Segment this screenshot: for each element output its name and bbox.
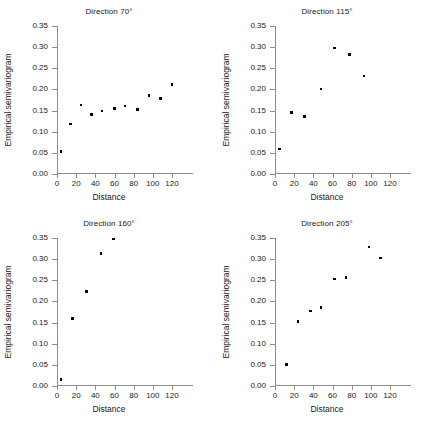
data-point [85, 290, 88, 293]
y-axis-line [275, 238, 276, 386]
data-point [71, 317, 74, 320]
y-axis-label: Empirical semivariogram [2, 238, 14, 386]
x-tick [134, 173, 135, 178]
x-tick [57, 385, 58, 390]
y-tick-label: 0.00 [18, 382, 48, 390]
data-point [60, 378, 63, 381]
data-point [278, 148, 281, 151]
data-point [124, 105, 127, 108]
data-point [348, 53, 351, 56]
x-tick [95, 385, 96, 390]
y-tick [270, 280, 275, 281]
y-axis-label: Empirical semivariogram [220, 26, 232, 174]
y-tick [52, 344, 57, 345]
y-tick-label: 0.15 [18, 107, 48, 115]
data-point [320, 306, 323, 309]
y-tick [270, 111, 275, 112]
y-tick [52, 26, 57, 27]
y-tick [52, 153, 57, 154]
y-tick [270, 89, 275, 90]
y-tick [52, 323, 57, 324]
panel-direction-115: Direction 115° Empirical semivariogram 0… [218, 0, 436, 212]
y-tick-label: 0.05 [236, 149, 266, 157]
y-axis-label-text: Empirical semivariogram [221, 53, 231, 146]
x-tick [172, 385, 173, 390]
y-tick [52, 111, 57, 112]
y-tick [270, 344, 275, 345]
data-point [345, 276, 348, 279]
y-tick-label: 0.00 [18, 170, 48, 178]
data-point [90, 113, 93, 116]
panel-title: Direction 115° [218, 7, 436, 16]
x-tick [275, 173, 276, 178]
y-tick [52, 301, 57, 302]
y-tick-label: 0.35 [236, 22, 266, 30]
y-tick-label: 0.20 [236, 85, 266, 93]
y-tick [270, 301, 275, 302]
y-tick [52, 132, 57, 133]
x-tick [115, 173, 116, 178]
y-tick [52, 238, 57, 239]
x-tick [275, 385, 276, 390]
y-axis-line [57, 26, 58, 174]
y-tick-label: 0.05 [18, 149, 48, 157]
y-axis-label: Empirical semivariogram [2, 26, 14, 174]
y-axis-line [57, 238, 58, 386]
y-tick-label: 0.10 [18, 128, 48, 136]
y-tick-label: 0.00 [236, 170, 266, 178]
x-tick [134, 385, 135, 390]
x-tick [172, 173, 173, 178]
y-tick-label: 0.35 [18, 234, 48, 242]
data-point [379, 257, 382, 260]
panel-title: Direction 205° [218, 219, 436, 228]
x-tick [352, 173, 353, 178]
y-tick [270, 259, 275, 260]
x-tick [313, 385, 314, 390]
data-point [303, 115, 306, 118]
y-tick [270, 26, 275, 27]
y-tick [270, 365, 275, 366]
y-tick [52, 47, 57, 48]
x-tick-label: 120 [159, 180, 185, 188]
data-point [333, 47, 336, 50]
y-axis-label-text: Empirical semivariogram [3, 53, 13, 146]
data-point [159, 97, 162, 100]
x-tick [333, 173, 334, 178]
data-point [290, 111, 293, 114]
data-point [320, 88, 323, 91]
x-tick [153, 385, 154, 390]
y-tick-label: 0.10 [18, 340, 48, 348]
y-tick-label: 0.15 [18, 319, 48, 327]
y-tick [52, 280, 57, 281]
y-tick-label: 0.20 [236, 297, 266, 305]
x-tick [57, 173, 58, 178]
x-axis-label: Distance [0, 404, 218, 414]
x-axis-label: Distance [218, 404, 436, 414]
y-tick-label: 0.30 [18, 43, 48, 51]
y-tick [52, 68, 57, 69]
data-point [333, 278, 336, 281]
y-tick-label: 0.20 [18, 297, 48, 305]
data-point [309, 310, 312, 313]
x-tick [390, 385, 391, 390]
y-tick [270, 238, 275, 239]
y-tick-label: 0.20 [18, 85, 48, 93]
data-point [136, 108, 139, 111]
y-tick-label: 0.35 [236, 234, 266, 242]
y-axis-label-text: Empirical semivariogram [221, 265, 231, 358]
data-point [69, 123, 72, 126]
x-tick [333, 385, 334, 390]
x-tick [153, 173, 154, 178]
data-point [297, 320, 300, 323]
y-tick [52, 259, 57, 260]
y-tick [270, 132, 275, 133]
y-axis-line [275, 26, 276, 174]
data-point [101, 110, 104, 113]
y-tick [52, 365, 57, 366]
y-tick-label: 0.25 [236, 64, 266, 72]
x-tick [294, 173, 295, 178]
y-tick-label: 0.15 [236, 319, 266, 327]
data-point [113, 107, 116, 110]
data-point [112, 238, 115, 241]
y-tick-label: 0.25 [18, 64, 48, 72]
